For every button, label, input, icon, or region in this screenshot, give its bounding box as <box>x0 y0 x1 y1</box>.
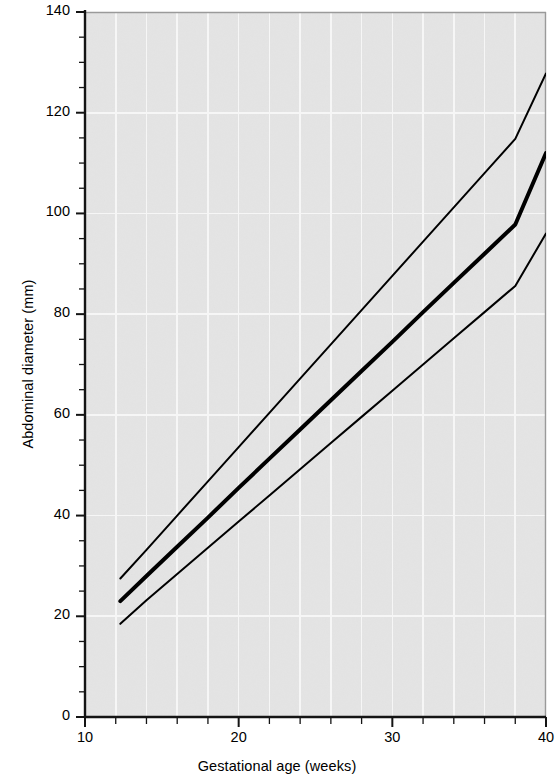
x-tick-label: 40 <box>521 729 559 745</box>
x-axis-title: Gestational age (weeks) <box>0 758 554 774</box>
plot-area-grain <box>85 12 546 717</box>
y-tick-label: 0 <box>24 707 70 723</box>
x-tick-label: 30 <box>367 729 417 745</box>
x-tick-label: 10 <box>60 729 110 745</box>
y-axis-title: Abdominal diameter (mm) <box>20 84 36 644</box>
x-ticks-major <box>85 717 546 727</box>
x-tick-label: 20 <box>214 729 264 745</box>
y-tick-label: 140 <box>24 2 70 18</box>
